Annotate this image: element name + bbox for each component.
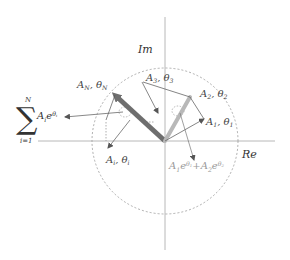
summation-term: Aieθi bbox=[37, 111, 57, 123]
label-A3: A3, θ3 bbox=[146, 73, 174, 84]
label-A1: A1, θ1 bbox=[206, 117, 234, 128]
summation-symbol: ∑ bbox=[16, 104, 37, 134]
resultant-vector bbox=[117, 97, 165, 141]
pointer-sum bbox=[65, 112, 123, 117]
pointer-A3 bbox=[142, 82, 158, 113]
pointer-AN bbox=[106, 95, 115, 120]
phasor-diagram bbox=[0, 0, 290, 260]
label-partial-sum: A1eθ1+A2eθ2 bbox=[169, 161, 224, 173]
real-axis-label: Re bbox=[242, 149, 257, 160]
summation-upper-limit: N bbox=[25, 97, 31, 104]
label-Ai: Ai, θi bbox=[106, 155, 130, 166]
pointer-partial-sum bbox=[180, 113, 194, 160]
label-AN: AN, θN bbox=[77, 80, 107, 91]
label-A2: A2, θ2 bbox=[200, 89, 228, 100]
imaginary-axis-label: Im bbox=[138, 44, 153, 55]
pointer-Ai bbox=[108, 120, 130, 148]
summation-lower-limit: i=1 bbox=[20, 138, 33, 145]
